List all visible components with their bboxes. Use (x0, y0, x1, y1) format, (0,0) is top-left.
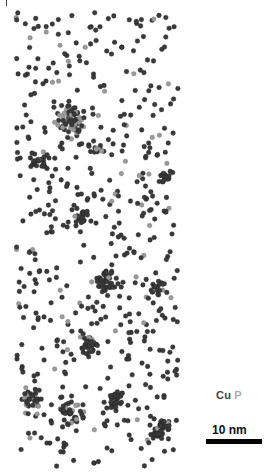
cu-atom (78, 59, 83, 64)
cu-atom (157, 85, 162, 90)
cu-atom (176, 86, 181, 91)
cu-atom (45, 230, 50, 235)
p-atom (24, 385, 29, 390)
cu-atom (162, 126, 167, 131)
cu-atom (74, 428, 79, 433)
cu-atom (30, 393, 35, 398)
p-atom (134, 275, 139, 280)
cu-atom (18, 156, 23, 161)
cu-atom (27, 65, 32, 70)
element-legend: CuP (216, 389, 242, 401)
cu-atom (135, 329, 140, 334)
cu-atom (43, 130, 48, 135)
cu-atom (65, 135, 70, 140)
p-atom (110, 199, 115, 204)
p-atom (89, 280, 94, 285)
cu-atom (112, 40, 117, 45)
cu-atom (146, 150, 151, 155)
cu-atom (120, 149, 125, 154)
cu-atom (55, 437, 60, 442)
cu-atom (136, 407, 141, 412)
cu-atom (36, 56, 41, 61)
cu-atom (143, 184, 148, 189)
cu-atom (106, 376, 111, 381)
cu-atom (164, 195, 169, 200)
cu-atom (174, 418, 179, 423)
cu-atom (137, 311, 142, 316)
cu-atom (50, 174, 55, 179)
cu-atom (32, 91, 37, 96)
p-atom (94, 147, 99, 152)
cu-atom (17, 289, 22, 294)
cu-atom (32, 26, 37, 31)
cu-atom (142, 464, 147, 469)
p-atom (166, 82, 171, 87)
cu-atom (92, 461, 97, 466)
cu-atom (60, 295, 65, 300)
cu-atom (151, 329, 156, 334)
cu-atom (142, 195, 147, 200)
cu-atom (142, 97, 147, 102)
cu-atom (67, 119, 72, 124)
cu-atom (101, 197, 106, 202)
cu-atom (140, 361, 145, 366)
cu-atom (114, 405, 119, 410)
cu-atom (99, 317, 104, 322)
cu-atom (49, 301, 54, 306)
cu-atom (14, 245, 19, 250)
cu-atom (114, 276, 119, 281)
cu-atom (63, 360, 68, 365)
p-atom (57, 113, 62, 118)
cu-atom (66, 220, 71, 225)
p-atom (169, 296, 174, 301)
cu-atom (157, 13, 162, 18)
cu-atom (110, 232, 115, 237)
cu-atom (109, 241, 114, 246)
cu-atom (84, 60, 89, 65)
cu-atom (36, 315, 41, 320)
cu-atom (164, 15, 169, 20)
p-atom (157, 133, 162, 138)
p-atom (58, 43, 63, 48)
cu-atom (90, 106, 95, 111)
cu-atom (42, 125, 47, 130)
cu-atom (46, 203, 51, 208)
cu-atom (106, 339, 111, 344)
cu-atom (55, 344, 60, 349)
cu-atom (91, 139, 96, 144)
cu-atom (167, 424, 172, 429)
cu-atom (98, 24, 103, 29)
cu-atom (164, 35, 169, 40)
cu-atom (157, 432, 162, 437)
cu-atom (131, 49, 136, 54)
cu-atom (62, 51, 67, 56)
p-atom (28, 36, 33, 41)
cu-atom (161, 348, 166, 353)
cu-atom (32, 289, 37, 294)
cu-atom (124, 69, 129, 74)
cu-atom (133, 398, 138, 403)
cu-atom (157, 288, 162, 293)
p-atom (52, 367, 57, 372)
cu-atom (99, 125, 104, 130)
cu-atom (113, 393, 118, 398)
cu-atom (159, 306, 164, 311)
cu-atom (116, 194, 121, 199)
cu-atom (34, 209, 39, 214)
cu-atom (102, 83, 107, 88)
cu-atom (170, 170, 175, 175)
cu-atom (139, 255, 144, 260)
cu-atom (26, 431, 31, 436)
cu-atom (98, 386, 103, 391)
cu-atom (21, 315, 26, 320)
cu-atom (145, 58, 150, 63)
cu-atom (117, 221, 122, 226)
cu-atom (31, 177, 36, 182)
cu-atom (111, 142, 116, 147)
cu-atom (105, 446, 110, 451)
cu-atom (70, 208, 75, 213)
cu-atom (27, 195, 32, 200)
cu-atom (106, 16, 111, 21)
cu-atom (165, 290, 170, 295)
p-atom (28, 436, 33, 441)
